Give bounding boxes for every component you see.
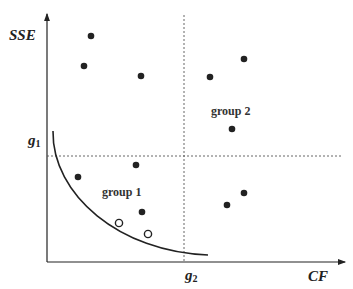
data-point — [133, 162, 140, 169]
data-point — [241, 56, 248, 63]
data-point-open — [115, 219, 122, 226]
group-1-label: group 1 — [102, 185, 141, 199]
data-point — [229, 126, 236, 133]
data-point — [139, 209, 146, 216]
g1-label: g1 — [27, 132, 41, 149]
g2-label: g2 — [184, 267, 198, 284]
x-axis-label: CF — [308, 268, 328, 284]
data-point — [138, 73, 145, 80]
data-point — [224, 202, 231, 209]
clustering-diagram: SSE CF g1 g2 group 1 group 2 — [0, 0, 353, 289]
data-point — [75, 174, 82, 181]
y-axis-label: SSE — [9, 27, 36, 43]
group-2-label: group 2 — [211, 104, 250, 118]
filled-points — [75, 33, 248, 216]
data-point — [241, 190, 248, 197]
data-point — [81, 63, 88, 70]
open-points — [115, 219, 151, 237]
data-point — [88, 33, 95, 40]
data-point — [207, 74, 214, 81]
data-point-open — [144, 230, 151, 237]
